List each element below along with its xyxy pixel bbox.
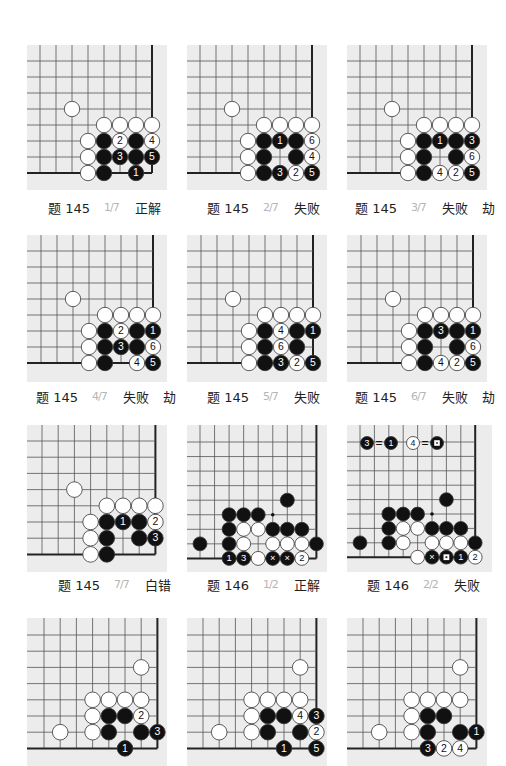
white-stone (404, 708, 420, 724)
variation-fraction: 1/2 (263, 578, 278, 591)
black-stone (257, 339, 272, 354)
white-stone (432, 117, 447, 132)
white-stone (465, 307, 480, 322)
white-stone (464, 117, 479, 132)
black-stone (289, 339, 304, 354)
white-stone (65, 291, 80, 306)
black-stone (448, 133, 463, 148)
go-board: 24351 (27, 45, 167, 190)
black-stone: 3 (420, 741, 436, 757)
black-stone (276, 708, 292, 724)
result-label: 失败 (442, 198, 468, 217)
white-stone (244, 708, 260, 724)
go-diagram-panel: 213645 (27, 235, 167, 382)
svg-text:2: 2 (293, 167, 299, 178)
white-stone (244, 692, 260, 708)
black-stone: 1 (222, 551, 236, 565)
black-stone (128, 133, 143, 148)
white-stone: 4 (407, 437, 420, 450)
black-stone: 5 (144, 149, 159, 164)
white-stone (288, 117, 303, 132)
white-stone (80, 133, 95, 148)
white-stone (101, 692, 117, 708)
white-stone: 6 (465, 339, 480, 354)
black-stone: 5 (305, 355, 320, 370)
svg-text:3: 3 (278, 357, 284, 368)
variation-fraction: 7/7 (114, 578, 129, 591)
white-stone: 4 (432, 165, 447, 180)
go-diagram-panel: ×123=14= (347, 425, 492, 572)
white-stone (81, 323, 96, 338)
white-stone (224, 101, 239, 116)
svg-text:6: 6 (469, 151, 475, 162)
white-stone (131, 498, 147, 514)
svg-text:2: 2 (441, 742, 447, 754)
problem-number: 题 145 (36, 387, 78, 406)
black-stone (289, 323, 304, 338)
black-stone (280, 522, 294, 536)
point-marker-icon (430, 512, 434, 516)
black-stone (417, 355, 432, 370)
svg-text:3: 3 (241, 552, 246, 563)
svg-text:3: 3 (469, 135, 475, 146)
svg-text:2: 2 (473, 552, 478, 562)
white-stone (260, 692, 276, 708)
black-stone (133, 724, 149, 740)
white-stone (401, 355, 416, 370)
white-stone (96, 117, 111, 132)
result-label: 正解 (135, 198, 161, 217)
white-stone: 4 (144, 133, 159, 148)
black-stone (256, 149, 271, 164)
black-stone (101, 708, 117, 724)
svg-text:4: 4 (437, 167, 443, 178)
white-stone (454, 536, 468, 550)
go-board: 13××2 (187, 425, 327, 572)
black-stone: 5 (304, 165, 319, 180)
white-stone (292, 692, 308, 708)
black-stone (97, 339, 112, 354)
white-stone (305, 307, 320, 322)
white-stone: 2 (133, 708, 149, 724)
diagram-caption: 题 1451/7正解 (48, 197, 175, 217)
black-stone (382, 507, 396, 521)
go-board: 416325 (187, 235, 327, 382)
black-stone (131, 514, 147, 530)
problem-number: 题 145 (207, 198, 249, 217)
black-stone (468, 536, 482, 550)
white-stone (411, 550, 425, 564)
white-stone (117, 692, 133, 708)
diagram-caption: 题 1453/7失败劫 (355, 197, 495, 217)
black-stone (416, 133, 431, 148)
white-stone: 4 (273, 323, 288, 338)
white-stone (145, 307, 160, 322)
white-stone: 2 (448, 165, 463, 180)
white-stone (404, 692, 420, 708)
white-stone (148, 498, 164, 514)
go-diagram-panel: 13××2 (187, 425, 327, 572)
black-stone: 3 (273, 355, 288, 370)
black-stone (440, 522, 454, 536)
white-stone (52, 724, 68, 740)
problem-number: 题 145 (355, 387, 397, 406)
result-label: 失败 (454, 575, 480, 594)
black-stone (440, 550, 454, 564)
black-stone: 1 (305, 323, 320, 338)
white-stone (144, 117, 159, 132)
white-stone (241, 355, 256, 370)
white-stone (240, 133, 255, 148)
svg-text:3: 3 (365, 438, 370, 448)
black-stone (99, 530, 115, 546)
white-stone (83, 514, 99, 530)
white-stone (97, 307, 112, 322)
white-stone (225, 291, 240, 306)
svg-text:6: 6 (150, 341, 156, 352)
black-stone: 1 (128, 165, 143, 180)
black-stone (99, 547, 115, 563)
svg-text:2: 2 (453, 167, 459, 178)
svg-text:2: 2 (152, 515, 158, 527)
problem-number: 题 145 (58, 575, 100, 594)
black-stone: 1 (454, 550, 468, 564)
white-stone (80, 165, 95, 180)
svg-text:4: 4 (134, 357, 140, 368)
svg-text:3: 3 (277, 167, 283, 178)
